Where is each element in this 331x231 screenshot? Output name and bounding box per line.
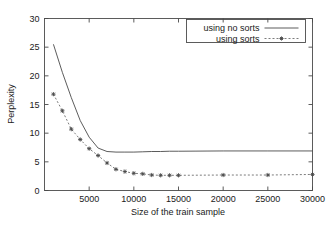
y-tick-label: 15 [29, 100, 39, 110]
legend-marker-sample [279, 36, 283, 40]
data-point-marker [105, 161, 109, 165]
data-point-marker [221, 173, 225, 177]
x-axis-label: Size of the train sample [131, 207, 225, 217]
x-tick-label: 25000 [255, 194, 280, 204]
data-point-marker [78, 137, 82, 141]
data-point-marker [141, 172, 145, 176]
data-point-marker [87, 147, 91, 151]
data-point-marker [96, 153, 100, 157]
y-tick-label: 20 [29, 71, 39, 81]
data-point-marker [123, 169, 127, 173]
x-tick-label: 10000 [121, 194, 146, 204]
x-tick-label: 15000 [166, 194, 191, 204]
perplexity-line-chart: 50001000015000200002500030000 0510152025… [0, 0, 331, 231]
data-point-marker [114, 167, 118, 171]
data-point-marker [69, 127, 73, 131]
legend-label: using no sorts [203, 23, 260, 33]
data-point-marker [150, 173, 154, 177]
data-point-marker [266, 173, 270, 177]
x-tick-label: 20000 [211, 194, 236, 204]
y-tick-label: 10 [29, 128, 39, 138]
data-point-marker [167, 173, 171, 177]
chart-container: 50001000015000200002500030000 0510152025… [0, 0, 331, 231]
data-point-marker [51, 92, 55, 96]
data-point-marker [159, 173, 163, 177]
y-axis-label: Perplexity [6, 84, 16, 124]
y-tick-label: 30 [29, 14, 39, 24]
y-tick-label: 25 [29, 42, 39, 52]
y-tick-label: 5 [34, 157, 39, 167]
data-point-marker [132, 171, 136, 175]
x-tick-label: 30000 [300, 194, 325, 204]
x-tick-label: 5000 [79, 194, 99, 204]
data-point-marker [176, 173, 180, 177]
data-point-marker [310, 172, 314, 176]
y-tick-label: 0 [34, 186, 39, 196]
legend-label: using sorts [216, 34, 260, 44]
data-point-marker [60, 109, 64, 113]
